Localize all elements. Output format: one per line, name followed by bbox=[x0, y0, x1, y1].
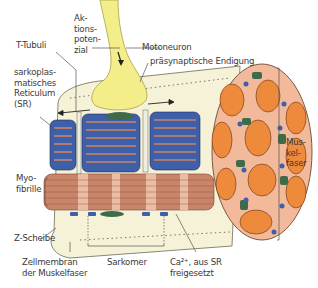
label-myofibrille: Myo- fibrille bbox=[16, 173, 41, 194]
label-praesynaptische-endigung: präsynaptische Endigung bbox=[150, 56, 254, 67]
label-motoneuron: Motoneuron bbox=[142, 42, 192, 53]
label-muskelfaser: Mus- kel- faser bbox=[286, 137, 307, 169]
label-calcium: Ca²⁺, aus SR freigesetzt bbox=[170, 257, 222, 278]
label-zellmembran: Zellmembran der Muskelfaser bbox=[22, 257, 87, 278]
sarcoplasmic-reticulum bbox=[50, 112, 200, 172]
label-aktionspotenzial: Ak- tions- poten- zial bbox=[74, 13, 101, 55]
label-sarkoplasmatisches-reticulum: sarkoplas- matisches Reticulum (SR) bbox=[14, 67, 56, 109]
label-t-tubuli: T-Tubuli bbox=[16, 40, 46, 51]
label-sarkomer: Sarkomer bbox=[107, 257, 147, 268]
label-z-scheibe: Z-Scheibe bbox=[14, 233, 55, 244]
